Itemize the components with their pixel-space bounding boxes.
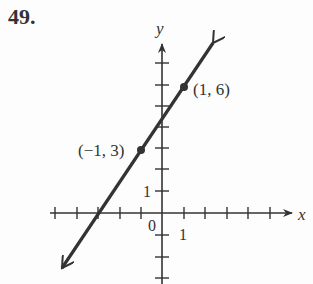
y-axis [155, 44, 169, 284]
coordinate-graph: y x 0 1 1 (−1, 3) (1, 6) [0, 0, 313, 284]
x-axis-label: x [297, 205, 306, 224]
point-label-neg1-3: (−1, 3) [78, 141, 124, 160]
point-label-1-6: (1, 6) [193, 80, 230, 99]
x-axis [50, 207, 292, 219]
point-neg1-3 [137, 146, 145, 154]
point-1-6 [180, 83, 188, 91]
y-unit-label: 1 [143, 183, 151, 200]
x-unit-label: 1 [179, 226, 187, 243]
y-axis-label: y [154, 19, 164, 38]
origin-label: 0 [148, 217, 156, 234]
